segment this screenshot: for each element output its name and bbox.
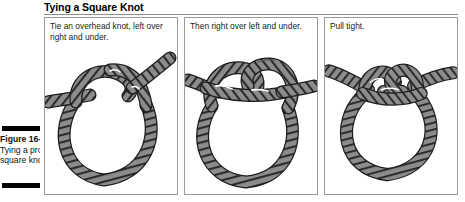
step-panels: Tie an overhead knot, left over right an… (44, 17, 458, 195)
figure-caption-label: Figure 16-1: (0, 134, 39, 145)
figure-caption-line3: square knot. (0, 155, 39, 166)
figure-title: Tying a Square Knot (44, 1, 143, 13)
figure-container: Figure 16-1: Tying a proper square knot.… (0, 0, 465, 202)
figure-caption: Figure 16-1: Tying a proper square knot. (0, 134, 40, 166)
figure-caption-rail: Figure 16-1: Tying a proper square knot. (0, 126, 40, 188)
rope-overhand-knot-loop-illustration (45, 44, 177, 194)
step-panel-3-caption: Pull tight. (330, 21, 452, 32)
step-panel-1-caption: Tie an overhead knot, left over right an… (50, 21, 172, 43)
step-panel-2: Then right over left and under. (184, 17, 318, 195)
rope-second-crossing-knot-illustration (185, 44, 317, 194)
title-divider (44, 14, 458, 15)
caption-rule-bottom (2, 183, 40, 188)
caption-rule-top (2, 126, 40, 131)
rope-tightened-square-knot-illustration (325, 44, 457, 194)
figure-caption-line2: Tying a proper (0, 145, 39, 156)
step-panel-2-caption: Then right over left and under. (190, 21, 312, 32)
step-panel-3: Pull tight. (324, 17, 458, 195)
step-panel-1: Tie an overhead knot, left over right an… (44, 17, 178, 195)
